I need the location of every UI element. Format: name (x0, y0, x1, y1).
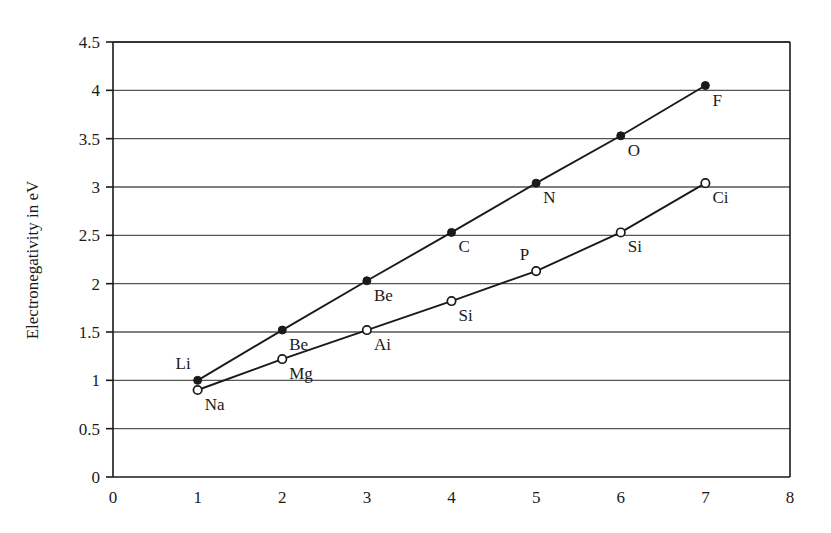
y-tick-label: 3.5 (79, 130, 100, 149)
electronegativity-line-chart: 00.511.522.533.544.5 012345678 LiBeBeCNO… (0, 0, 831, 533)
y-tick-label: 4 (92, 81, 101, 100)
data-point-label: Na (205, 395, 225, 414)
data-point-marker (363, 277, 371, 285)
data-point-marker (532, 267, 540, 275)
x-tick-label: 5 (532, 488, 541, 507)
data-point-label: Be (289, 335, 308, 354)
y-tick-label: 2 (92, 275, 101, 294)
data-point-marker (701, 82, 709, 90)
data-point-marker (448, 228, 456, 236)
y-tick-label: 1 (92, 371, 101, 390)
x-tick-label: 4 (447, 488, 456, 507)
y-tick-label: 0.5 (79, 420, 100, 439)
data-point-label: Ci (712, 188, 728, 207)
data-point-label: Si (459, 306, 473, 325)
data-point-label: Be (374, 286, 393, 305)
x-tick-label: 3 (363, 488, 372, 507)
data-point-marker (194, 376, 202, 384)
data-point-marker (278, 326, 286, 334)
data-point-label: O (628, 141, 640, 160)
x-tick-label: 8 (786, 488, 795, 507)
data-point-label: N (543, 188, 555, 207)
data-point-label: Mg (289, 364, 313, 383)
data-point-label: Li (176, 354, 191, 373)
y-tick-label: 3 (92, 178, 101, 197)
data-point-marker (617, 228, 625, 236)
data-point-marker (617, 132, 625, 140)
y-tick-label: 4.5 (79, 33, 100, 52)
x-tick-label: 1 (193, 488, 202, 507)
x-tick-label: 0 (109, 488, 118, 507)
x-tick-label: 6 (617, 488, 626, 507)
data-point-label: Ai (374, 335, 391, 354)
y-axis-title: Electronegativity in eV (23, 180, 42, 339)
chart-container: 00.511.522.533.544.5 012345678 LiBeBeCNO… (0, 0, 831, 533)
data-point-marker (701, 179, 709, 187)
x-tick-label: 7 (701, 488, 710, 507)
data-point-marker (532, 179, 540, 187)
x-tick-label: 2 (278, 488, 287, 507)
data-point-marker (363, 326, 371, 334)
y-tick-label: 0 (92, 468, 101, 487)
y-tick-label: 2.5 (79, 226, 100, 245)
data-point-marker (193, 386, 201, 394)
data-point-label: P (520, 245, 529, 264)
data-point-label: Si (628, 237, 642, 256)
y-tick-label: 1.5 (79, 323, 100, 342)
data-point-label: F (712, 91, 721, 110)
data-point-marker (447, 297, 455, 305)
data-point-label: C (459, 237, 470, 256)
data-point-marker (278, 355, 286, 363)
chart-background (0, 0, 831, 533)
